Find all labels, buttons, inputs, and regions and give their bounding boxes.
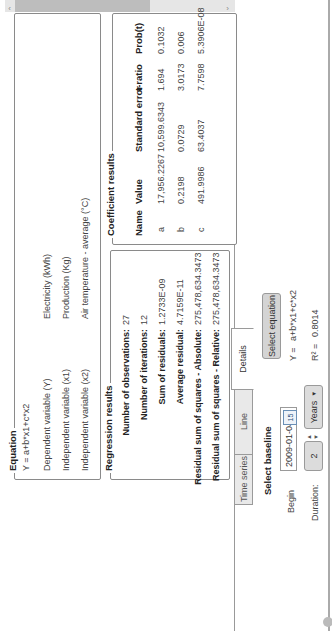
regression-results-group: Regression results Number of observation… xyxy=(110,250,230,480)
independent-variable-x2-label: Independent variable (x2) xyxy=(80,369,90,471)
coef-b-stderr: 0.0729 xyxy=(176,124,186,152)
coefficient-results-title: Coefficient results xyxy=(105,151,116,238)
duration-unit-dropdown[interactable]: Years ▼ xyxy=(304,385,323,429)
calendar-icon[interactable]: 15 xyxy=(283,410,297,425)
duration-value-spinner[interactable]: 2 xyxy=(304,441,323,471)
col-header-standard-error: Standard error xyxy=(133,86,144,152)
average-residual-value: 4.7159E-11 xyxy=(175,279,185,325)
tab-time-series[interactable]: Time series xyxy=(234,453,253,505)
iterations-value: 12 xyxy=(139,315,149,325)
begin-label: Begin xyxy=(286,490,296,513)
tab-details[interactable]: Details xyxy=(231,328,254,390)
begin-date-value: 2009-01-04 xyxy=(284,421,294,467)
rss-relative-value: 275,478,634.3473 xyxy=(211,252,221,325)
coef-c-value: 491.9986 xyxy=(196,166,206,204)
observations-value: 27 xyxy=(121,315,131,325)
coef-c-name: c xyxy=(196,228,206,233)
coef-a-value: 17,956.2267 xyxy=(156,154,166,204)
sum-residuals-value: 1.2733E-09 xyxy=(157,278,167,325)
dependent-variable-label: Dependent variable (Y) xyxy=(42,378,52,471)
independent-variable-x2-value: Air temperature - average (°C) xyxy=(80,198,90,319)
scroll-right-arrow-icon[interactable]: › xyxy=(226,4,229,13)
r-squared-value: 0.8014 xyxy=(310,309,320,337)
equation-group: Equation Y = a+b*x1+c*x2 Dependent varia… xyxy=(14,13,101,480)
coef-a-tratio: 1.694 xyxy=(156,68,166,91)
rss-absolute-value: 275,478,634.3473 xyxy=(193,252,203,325)
regression-row: Residual sum of squares - Relative: 275,… xyxy=(211,251,229,479)
equation-title: Equation xyxy=(7,428,18,473)
select-equation-label: Select equation xyxy=(267,295,277,357)
regression-row: Number of observations: 27 xyxy=(121,251,139,479)
regression-row: Sum of residuals: 1.2733E-09 xyxy=(157,251,175,479)
regression-results-title: Regression results xyxy=(103,383,114,473)
regression-row: Average residual: 4.7159E-11 xyxy=(175,251,193,479)
coef-b-value: 0.2198 xyxy=(176,176,186,204)
average-residual-label: Average residual: xyxy=(175,329,185,404)
calendar-icon-day: 15 xyxy=(287,414,294,422)
scroll-left-arrow-icon[interactable]: ‹ xyxy=(8,4,11,13)
duration-value: 2 xyxy=(309,454,319,459)
dependent-variable-value: Electricity (kWh) xyxy=(42,254,52,319)
coef-a-name: a xyxy=(156,227,166,232)
coef-a-stderr: 10,599.6343 xyxy=(156,102,166,152)
equation-result: a+b*x1+c*x2 xyxy=(288,290,298,341)
equation-prefix: Y = xyxy=(288,347,298,361)
duration-unit-value: Years xyxy=(309,401,319,424)
duration-spinner-arrows-icon[interactable]: ▲▼ xyxy=(306,433,320,441)
rss-absolute-label: Residual sum of squares - Absolute: xyxy=(193,329,203,485)
rss-relative-label: Residual sum of squares - Relative: xyxy=(211,329,221,481)
dropdown-arrow-icon: ▼ xyxy=(311,391,317,397)
regression-details-panel: ‹ › Equation Y = a+b*x1+c*x2 Dependent v… xyxy=(0,0,332,631)
regression-row: Number of iterations: 12 xyxy=(139,251,157,479)
independent-variable-x1-value: Production (Kg) xyxy=(61,256,71,319)
coef-b-prob: 0.006 xyxy=(176,31,186,54)
coef-b-tratio: 3.0173 xyxy=(176,63,186,91)
equation-formula: Y = a+b*x1+c*x2 xyxy=(21,404,31,471)
coefficient-results-group: Coefficient results Name Value Standard … xyxy=(112,13,237,245)
iterations-label: Number of iterations: xyxy=(139,329,149,420)
duration-label: Duration: xyxy=(310,484,320,521)
coef-c-tratio: 7.7598 xyxy=(196,63,206,91)
sum-residuals-label: Sum of residuals: xyxy=(157,329,167,405)
regression-row: Residual sum of squares - Absolute: 275,… xyxy=(193,251,211,479)
r-squared-label: R² = xyxy=(310,344,320,361)
scrollbar-thumb[interactable] xyxy=(15,0,150,12)
col-header-prob-t: Prob(t) xyxy=(133,23,144,54)
coef-c-prob: 5.3906E-08 xyxy=(196,7,206,54)
tab-line[interactable]: Line xyxy=(234,388,253,455)
col-header-value: Value xyxy=(133,179,144,204)
coef-a-prob: 0.1032 xyxy=(156,26,166,54)
observations-label: Number of observations: xyxy=(121,329,131,436)
resize-handle-icon[interactable] xyxy=(323,617,332,627)
select-equation-button[interactable]: Select equation xyxy=(262,293,281,359)
bottom-border xyxy=(328,0,330,631)
col-header-name: Name xyxy=(133,210,144,236)
select-baseline-title: Select baseline xyxy=(262,426,273,495)
independent-variable-x1-label: Independent variable (x1) xyxy=(61,369,71,471)
coef-c-stderr: 63.4037 xyxy=(196,119,206,152)
coef-b-name: b xyxy=(176,227,186,232)
col-header-t-ratio: t-ratio xyxy=(133,64,144,91)
